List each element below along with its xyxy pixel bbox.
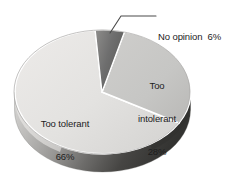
slice-label-too-intolerant-line1: Too bbox=[126, 80, 188, 91]
slice-label-too-intolerant-value: 28% bbox=[126, 146, 188, 157]
slice-label-too-intolerant-line2: intolerant bbox=[126, 113, 188, 124]
slice-label-too-tolerant-value: 66% bbox=[22, 151, 108, 162]
slice-label-too-tolerant-line1: Too tolerant bbox=[22, 118, 108, 129]
slice-label-no-opinion: No opinion 6% bbox=[158, 9, 221, 64]
pie-chart-figure: ▁▁▁▁ bbox=[0, 0, 231, 179]
slice-label-no-opinion-text: No opinion 6% bbox=[158, 31, 221, 42]
slice-label-too-tolerant: Too tolerant 66% bbox=[22, 96, 108, 179]
slice-label-too-intolerant: Too intolerant 28% bbox=[126, 58, 188, 179]
